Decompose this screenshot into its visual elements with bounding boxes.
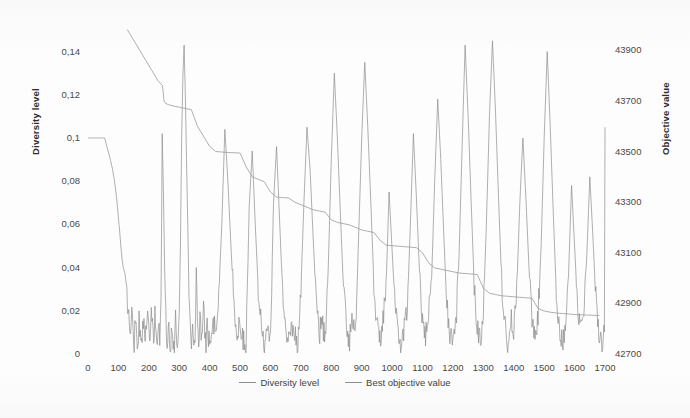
y-axis-left-tick-label: 0,06 xyxy=(62,218,81,229)
y-axis-right-tick-label: 43500 xyxy=(615,146,641,157)
y-axis-right-tick-label: 43100 xyxy=(615,247,641,258)
chart-figure: Diversity level Objective value 00,020,0… xyxy=(0,0,690,418)
y-axis-right-tick-label: 43900 xyxy=(615,44,641,55)
legend-line-swatch-diversity xyxy=(239,382,256,383)
series-line-best-objective-value xyxy=(128,30,599,316)
legend-line-swatch-objective xyxy=(345,382,362,383)
y-axis-left-tick-label: 0,14 xyxy=(62,46,81,57)
y-axis-left-tick-label: 0 xyxy=(75,348,80,359)
y-axis-right-tick-label: 43700 xyxy=(615,95,641,106)
plot-area xyxy=(0,0,690,418)
y-axis-left-tick-label: 0,1 xyxy=(67,132,80,143)
y-axis-left-tick-label: 0,02 xyxy=(62,305,81,316)
y-axis-left-tick-label: 0,12 xyxy=(62,89,81,100)
legend-label-diversity-level: Diversity level xyxy=(260,378,319,388)
x-axis-tick-label: 1700 xyxy=(585,362,625,373)
legend-item-diversity-level[interactable]: Diversity level xyxy=(239,378,319,388)
y-axis-right-tick-label: 42700 xyxy=(615,348,641,359)
legend-item-best-objective-value[interactable]: Best objective value xyxy=(345,378,451,388)
y-axis-right-tick-label: 43300 xyxy=(615,196,641,207)
y-axis-right-tick-label: 42900 xyxy=(615,297,641,308)
y-axis-left-tick-label: 0,08 xyxy=(62,175,81,186)
y-axis-left-tick-label: 0,04 xyxy=(62,262,81,273)
chart-legend: Diversity level Best objective value xyxy=(0,378,690,388)
legend-label-best-objective-value: Best objective value xyxy=(366,378,451,388)
